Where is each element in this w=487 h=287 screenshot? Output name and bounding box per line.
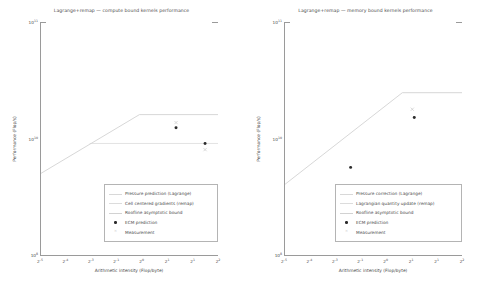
y-tick-label: 108 <box>22 252 38 258</box>
legend-item: Roofline asymptotic bound <box>109 208 212 218</box>
legend-item: Pressure correction (Lagrange) <box>340 189 456 199</box>
x-tick-label: 21 <box>165 258 170 264</box>
legend-label: Pressure correction (Lagrange) <box>356 191 422 196</box>
x-tick-label: 21 <box>190 258 195 264</box>
legend-item: Cell centered gradients (remap) <box>109 199 212 209</box>
x-tick-label: 21 <box>434 258 439 264</box>
y-tick-label: 1011 <box>266 19 282 25</box>
legend-item: Roofline asymptotic bound <box>340 208 456 218</box>
marker-ecm-prediction <box>175 126 178 129</box>
legend-line-swatch <box>340 199 353 208</box>
legend-item: Pressure prediction (Lagrange) <box>109 189 212 199</box>
x-tick-label: 2-5 <box>37 258 43 264</box>
legend: Pressure correction (Lagrange) Lagrangia… <box>335 184 462 242</box>
legend-line-swatch <box>109 189 122 198</box>
x-tick <box>336 255 337 256</box>
plot-area: Pressure prediction (Lagrange) Cell cent… <box>40 22 218 256</box>
legend-item: × Measurement <box>340 227 456 237</box>
y-tick-label: 1010 <box>22 136 38 142</box>
y-tick <box>40 139 41 140</box>
legend-label: Measurement <box>125 230 155 235</box>
panel-compute-bound: Lagrange+remap — compute bound kernels p… <box>0 0 243 287</box>
legend-label: Roofline asymptotic bound <box>125 210 182 215</box>
x-tick-label: 2-1 <box>357 258 363 264</box>
legend-label: ECM prediction <box>356 220 388 225</box>
x-tick-label: 2-5 <box>281 258 287 264</box>
x-tick-label: 2-1 <box>113 258 119 264</box>
x-tick-label: 2-4 <box>62 258 68 264</box>
legend-cross-swatch: × <box>109 228 122 237</box>
x-axis-label: Arithmetic intensity (Flop/byte) <box>40 268 218 273</box>
y-tick <box>284 255 285 256</box>
panel-title: Lagrange+remap — memory bound kernels pe… <box>244 8 487 13</box>
y-tick-label: 1010 <box>266 136 282 142</box>
x-tick-label: 2-4 <box>306 258 312 264</box>
legend-cross-swatch: × <box>340 228 353 237</box>
legend-label: Cell centered gradients (remap) <box>125 201 194 206</box>
marker-ecm-prediction <box>413 116 416 119</box>
legend-label: Lagrangian quantity update (remap) <box>356 201 435 206</box>
x-tick <box>168 255 169 256</box>
legend-item: ECM prediction <box>109 218 212 228</box>
x-tick <box>387 255 388 256</box>
legend-item: ECM prediction <box>340 218 456 228</box>
legend-line-swatch <box>340 208 353 217</box>
y-axis-label: Performance (Flop/s) <box>12 116 17 162</box>
y-tick <box>284 139 285 140</box>
x-tick-label: 2-3 <box>332 258 338 264</box>
legend-label: Roofline asymptotic bound <box>356 210 413 215</box>
x-tick-label: 22 <box>460 258 465 264</box>
x-tick <box>361 255 362 256</box>
panel-memory-bound: Lagrange+remap — memory bound kernels pe… <box>244 0 487 287</box>
marker-measurement <box>174 121 177 124</box>
y-tick-label: 1011 <box>22 19 38 25</box>
legend-dot-swatch <box>340 218 353 227</box>
marker-ecm-prediction <box>204 142 207 145</box>
x-tick-label: 21 <box>409 258 414 264</box>
roofline-figure: Lagrange+remap — compute bound kernels p… <box>0 0 487 287</box>
x-tick <box>438 255 439 256</box>
x-tick <box>66 255 67 256</box>
x-tick <box>285 255 286 256</box>
x-tick-label: 2-3 <box>88 258 94 264</box>
x-tick <box>412 255 413 256</box>
y-axis-label: Performance (Flop/s) <box>256 116 261 162</box>
y-tick <box>284 22 285 23</box>
x-tick-label: 22 <box>216 258 221 264</box>
legend-label: Pressure prediction (Lagrange) <box>125 191 191 196</box>
x-axis-label: Arithmetic intensity (Flop/byte) <box>284 268 462 273</box>
legend-label: Measurement <box>356 230 386 235</box>
panel-title: Lagrange+remap — compute bound kernels p… <box>0 8 243 13</box>
legend-item: × Measurement <box>109 227 212 237</box>
legend-line-swatch <box>340 189 353 198</box>
y-tick <box>40 255 41 256</box>
x-tick <box>92 255 93 256</box>
x-tick <box>143 255 144 256</box>
y-tick <box>40 22 41 23</box>
plot-area: Pressure correction (Lagrange) Lagrangia… <box>284 22 462 256</box>
marker-measurement <box>203 148 206 151</box>
legend-label: ECM prediction <box>125 220 157 225</box>
legend-line-swatch <box>109 199 122 208</box>
legend-item: Lagrangian quantity update (remap) <box>340 199 456 209</box>
legend-dot-swatch <box>109 218 122 227</box>
x-tick <box>194 255 195 256</box>
x-tick-label: 20 <box>139 258 144 264</box>
x-tick <box>117 255 118 256</box>
marker-measurement <box>411 108 414 111</box>
x-tick <box>310 255 311 256</box>
y-tick-label: 108 <box>266 252 282 258</box>
legend: Pressure prediction (Lagrange) Cell cent… <box>104 184 218 242</box>
marker-ecm-prediction <box>349 166 352 169</box>
x-tick <box>41 255 42 256</box>
x-tick-label: 20 <box>383 258 388 264</box>
legend-line-swatch <box>109 208 122 217</box>
